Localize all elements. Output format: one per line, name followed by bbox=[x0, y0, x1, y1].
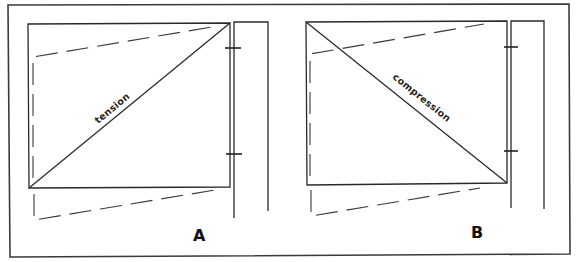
panel-b-letter: B bbox=[471, 223, 483, 242]
panel-a-letter: A bbox=[193, 226, 206, 245]
panel-a: tension A bbox=[28, 22, 268, 245]
diagram-canvas: tension A compression B bbox=[0, 0, 578, 262]
panel-b-side-column bbox=[511, 21, 544, 209]
panel-b: compression B bbox=[306, 21, 544, 242]
panel-a-side-column bbox=[234, 22, 268, 218]
outer-border bbox=[8, 4, 570, 257]
panel-b-diagonal-brace bbox=[306, 22, 507, 183]
panel-a-racked-outline-lower bbox=[34, 190, 215, 220]
diagram-figure: tension A compression B bbox=[0, 0, 578, 262]
panel-b-racked-outline-lower bbox=[311, 188, 480, 216]
panel-a-diagonal-brace bbox=[29, 23, 230, 188]
